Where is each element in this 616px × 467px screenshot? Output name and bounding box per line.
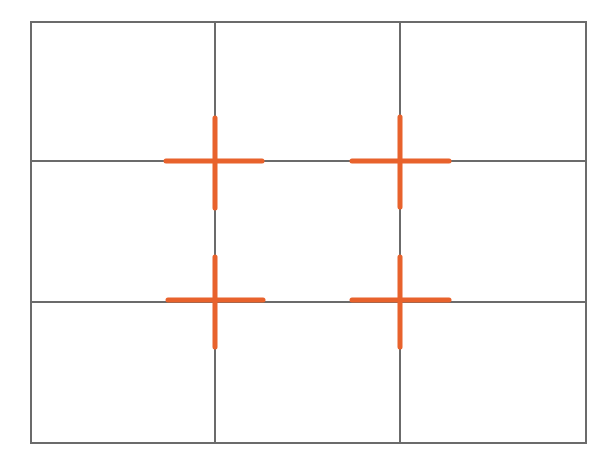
background [0, 0, 616, 467]
rule-of-thirds-diagram: Rule of thirds grid [0, 0, 616, 467]
